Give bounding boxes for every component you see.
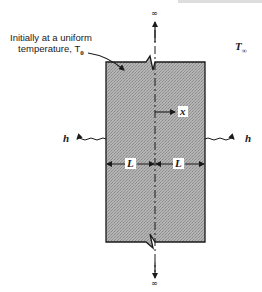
t0-subscript: 0 <box>80 49 84 57</box>
convection-right-arrow-icon <box>205 138 234 140</box>
convection-left-arrow-icon <box>77 138 106 140</box>
note-line-2: temperature, T0 <box>10 43 92 59</box>
ambient-temperature-label: T∞ <box>235 40 247 55</box>
note-line-2-text: temperature, T <box>18 43 80 54</box>
convection-coefficient-left: h <box>63 132 69 144</box>
top-infinity-label: ∞ <box>151 9 158 18</box>
x-coordinate-label: x <box>178 106 188 117</box>
convection-coefficient-right: h <box>245 132 251 144</box>
t-inf-subscript: ∞ <box>242 47 247 55</box>
half-thickness-right-label: L <box>173 158 184 169</box>
t-symbol: T <box>235 40 242 52</box>
half-thickness-left-label: L <box>125 158 136 169</box>
note-line-1: Initially at a uniform <box>10 32 92 43</box>
initial-condition-note: Initially at a uniform temperature, T0 <box>10 32 92 59</box>
bottom-infinity-label: ∞ <box>151 279 158 288</box>
